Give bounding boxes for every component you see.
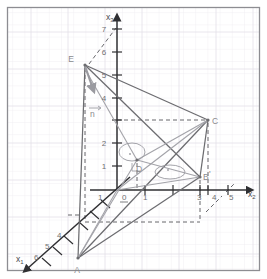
point-label-E: E	[68, 54, 74, 64]
vertex-dot-C	[206, 118, 209, 121]
grid-pattern	[7, 7, 260, 271]
ticklabel-x3-2: 2	[102, 139, 107, 148]
ticklabel-x2-1: 1	[143, 193, 148, 202]
normal-vector-text: n	[90, 109, 95, 119]
ticklabel-x1-6: 6	[34, 253, 39, 262]
ticklabel-x3-1: 1	[102, 162, 107, 171]
ticklabel-x1-4: 4	[57, 231, 62, 240]
ticklabel-x2-5: 5	[229, 193, 234, 202]
ticklabel-x3-6: 6	[102, 48, 107, 57]
ticklabel-x1-1: 1	[98, 193, 103, 202]
vertex-dot-A	[76, 256, 79, 259]
vertex-dot-B	[198, 175, 201, 178]
ticklabel-x2-4: 4	[212, 193, 217, 202]
ticklabel-x3-7: 7	[102, 25, 107, 34]
ticklabel-x3-5: 5	[102, 71, 107, 80]
point-label-C: C	[212, 116, 218, 126]
coordinate-diagram: x3 x2 x1 7 6 5 4 2 1 0 1 3 4 5 1 4 5 6 E…	[0, 0, 267, 279]
ticklabel-x1-5: 5	[45, 242, 50, 251]
angle-dot-base	[167, 169, 169, 171]
ticklabel-x3-4: 4	[102, 94, 107, 103]
vertex-dot-D	[135, 158, 138, 161]
ticklabel-x2-0: 0	[122, 193, 127, 202]
angle-dot-D	[129, 153, 131, 155]
vertex-dot-E	[83, 63, 86, 66]
point-label-D: D	[136, 164, 142, 174]
ticklabel-x2-3: 3	[197, 193, 202, 202]
figure-canvas: x3 x2 x1 7 6 5 4 2 1 0 1 3 4 5 1 4 5 6 E…	[0, 0, 267, 279]
point-label-A: A	[74, 265, 80, 275]
